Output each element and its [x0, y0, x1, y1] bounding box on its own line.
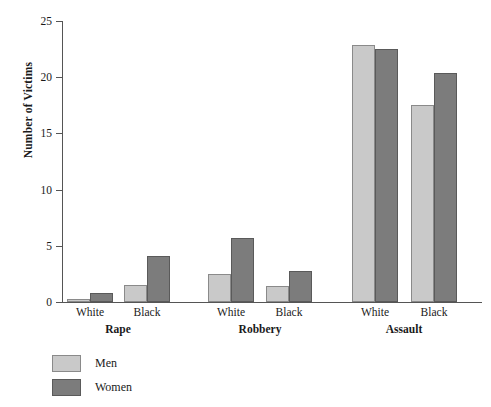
bar-women-2: [231, 238, 254, 302]
bar-men-3: [266, 286, 289, 302]
y-axis-tick-label: 20: [12, 71, 52, 83]
bar-women-5: [434, 73, 457, 302]
x-axis-group-label: Rape: [105, 323, 131, 335]
y-axis-tick-mark: [56, 133, 63, 134]
x-axis-group-label: Robbery: [239, 323, 282, 335]
bar-women-4: [375, 49, 398, 302]
y-axis-tick-mark: [56, 302, 63, 303]
bar-women-0: [90, 293, 113, 302]
legend-item: Women: [52, 376, 132, 398]
legend-swatch: [52, 379, 81, 396]
y-axis-tick-mark: [56, 77, 63, 78]
bar-women-3: [289, 271, 312, 302]
y-axis-label: Number of Victims: [22, 20, 34, 200]
legend-label: Men: [95, 356, 117, 371]
y-axis-tick-mark: [56, 246, 63, 247]
y-axis-tick-label: 15: [12, 127, 52, 139]
y-axis-tick-label: 10: [12, 184, 52, 196]
plot-area: [63, 21, 482, 302]
x-axis-sub-label: Black: [134, 306, 161, 318]
x-axis-sub-label: Black: [421, 306, 448, 318]
y-axis-tick-label: 0: [12, 296, 52, 308]
legend-label: Women: [95, 380, 132, 395]
x-axis-sub-label: Black: [276, 306, 303, 318]
legend-item: Men: [52, 352, 132, 374]
bar-chart: Number of Victims 0510152025 WhiteBlackW…: [0, 0, 491, 407]
bar-men-4: [352, 45, 375, 302]
x-axis-group-label: Assault: [386, 323, 422, 335]
y-axis-tick-label: 5: [12, 240, 52, 252]
bar-men-5: [411, 105, 434, 302]
bar-men-0: [67, 299, 90, 302]
bar-men-1: [124, 285, 147, 302]
y-axis-tick-mark: [56, 190, 63, 191]
x-axis-sub-label: White: [217, 306, 245, 318]
legend-swatch: [52, 355, 81, 372]
x-axis-line: [62, 302, 482, 303]
y-axis-tick-mark: [56, 21, 63, 22]
x-axis-sub-label: White: [76, 306, 104, 318]
y-axis-tick-label: 25: [12, 15, 52, 27]
bar-women-1: [147, 256, 170, 302]
bar-men-2: [208, 274, 231, 302]
x-axis-sub-label: White: [361, 306, 389, 318]
chart-legend: MenWomen: [52, 352, 132, 400]
